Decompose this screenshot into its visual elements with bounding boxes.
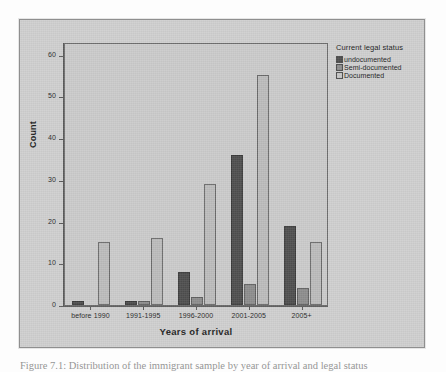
- legend: Current legal status undocumentedSemi-do…: [336, 43, 422, 80]
- legend-label: undocumented: [344, 56, 391, 63]
- legend-label: Documented: [344, 72, 384, 79]
- y-axis-title: Count: [28, 121, 38, 148]
- y-tick-mark: [59, 223, 63, 224]
- y-tick-mark: [59, 181, 63, 182]
- bars-container: [65, 44, 327, 305]
- y-tick-label: 10: [48, 259, 56, 266]
- x-tick-mark: [249, 306, 250, 310]
- x-category-label: before 1990: [64, 312, 117, 319]
- legend-swatch-icon: [336, 72, 343, 79]
- x-category-label: 1991-1995: [117, 312, 170, 319]
- legend-entry: undocumented: [336, 56, 422, 63]
- bar: [178, 272, 190, 305]
- legend-entries: undocumentedSemi-documentedDocumented: [336, 56, 422, 79]
- plot-area: [64, 43, 328, 306]
- y-tick-mark: [59, 56, 63, 57]
- bar: [98, 242, 110, 305]
- bar: [204, 184, 216, 305]
- x-axis-title: Years of arrival: [64, 326, 328, 337]
- bar: [284, 226, 296, 305]
- y-tick-label: 20: [48, 218, 56, 225]
- y-tick-label: 40: [48, 134, 56, 141]
- y-tick-label: 30: [48, 176, 56, 183]
- y-tick-mark: [59, 139, 63, 140]
- legend-title: Current legal status: [336, 43, 422, 52]
- x-category-label: 2005+: [275, 312, 328, 319]
- legend-swatch-icon: [336, 56, 343, 63]
- x-category-label: 2001-2005: [222, 312, 275, 319]
- legend-entry: Documented: [336, 72, 422, 79]
- bar: [138, 301, 150, 305]
- bar: [151, 238, 163, 305]
- x-category-label: 1996-2000: [170, 312, 223, 319]
- legend-entry: Semi-documented: [336, 64, 422, 71]
- bar: [257, 75, 269, 305]
- bar: [297, 288, 309, 305]
- x-tick-mark: [196, 306, 197, 310]
- bar: [191, 297, 203, 305]
- figure-caption: Figure 7.1: Distribution of the immigran…: [20, 360, 430, 372]
- bar: [125, 301, 137, 305]
- legend-label: Semi-documented: [344, 64, 402, 71]
- figure-card: Count 0102030405060 before 19901991-1995…: [19, 19, 425, 348]
- y-tick-mark: [59, 264, 63, 265]
- y-tick-mark: [59, 97, 63, 98]
- scanned-page: Count 0102030405060 before 19901991-1995…: [0, 0, 446, 372]
- x-tick-mark: [143, 306, 144, 310]
- y-tick-label: 60: [48, 51, 56, 58]
- bar: [231, 155, 243, 305]
- y-tick-label: 50: [48, 92, 56, 99]
- x-tick-mark: [90, 306, 91, 310]
- legend-swatch-icon: [336, 64, 343, 71]
- x-tick-mark: [302, 306, 303, 310]
- y-tick-label: 0: [52, 301, 56, 308]
- bar: [72, 301, 84, 305]
- bar: [244, 284, 256, 305]
- bar: [310, 242, 322, 305]
